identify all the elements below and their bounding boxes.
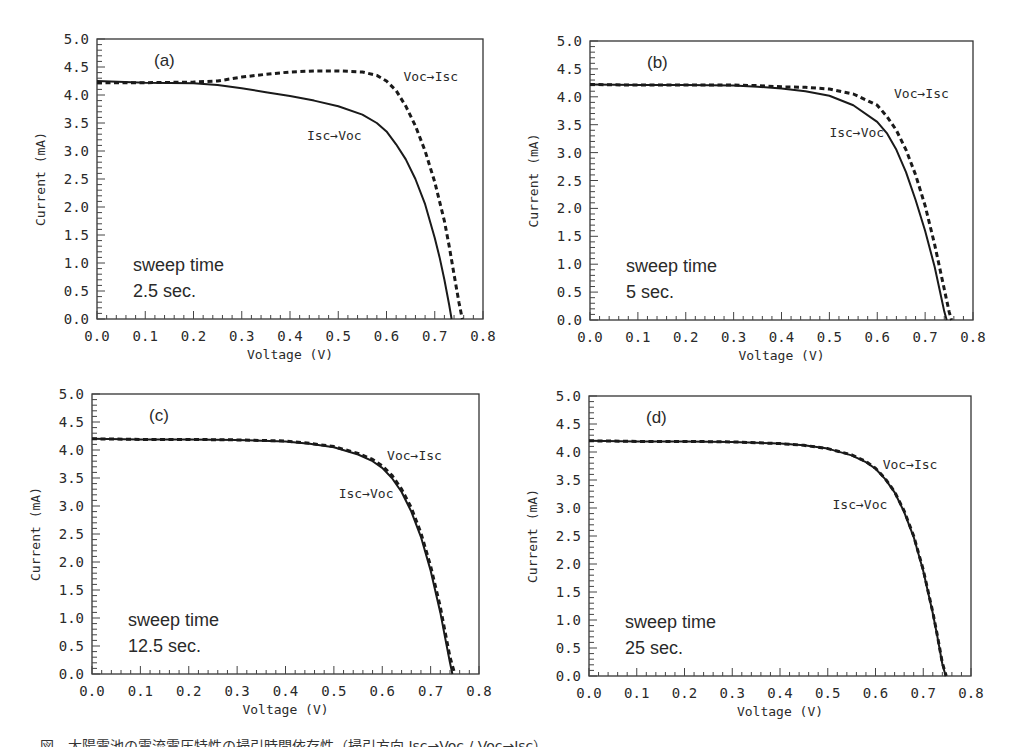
y-tick-label: 1.0: [556, 612, 581, 628]
y-tick-label: 0.0: [556, 668, 581, 684]
chart-svg: 0.00.51.01.52.02.53.03.54.04.55.00.00.10…: [505, 0, 1017, 370]
x-tick-label: 0.1: [133, 328, 158, 344]
y-tick-label: 1.5: [556, 584, 581, 600]
y-tick-label: 4.5: [557, 61, 582, 77]
y-tick-label: 1.5: [557, 228, 582, 244]
curve-label: Isc→Voc: [833, 497, 888, 512]
x-tick-label: 0.3: [721, 329, 746, 345]
x-tick-label: 0.0: [84, 328, 109, 344]
x-tick-label: 0.2: [181, 328, 206, 344]
sweep-time-annotation: sweep time: [133, 255, 224, 275]
x-tick-label: 0.6: [370, 683, 395, 699]
y-tick-label: 5.0: [59, 386, 84, 402]
y-tick-label: 2.5: [556, 528, 581, 544]
y-tick-label: 3.0: [557, 145, 582, 161]
curve-label: Voc→Isc: [387, 448, 442, 463]
x-tick-label: 0.4: [767, 685, 792, 701]
x-tick-label: 0.7: [418, 683, 443, 699]
x-axis-label: Voltage (V): [737, 704, 823, 719]
curve-label: Voc→Isc: [894, 86, 949, 101]
chart-panel-c: 0.00.51.01.52.02.53.03.54.04.55.00.00.10…: [0, 370, 505, 735]
y-tick-label: 3.5: [557, 117, 582, 133]
y-tick-label: 4.0: [64, 87, 89, 103]
chart-panel-b: 0.00.51.01.52.02.53.03.54.04.55.00.00.10…: [505, 0, 1017, 370]
x-tick-label: 0.5: [817, 329, 842, 345]
chart-svg: 0.00.51.01.52.02.53.03.54.04.55.00.00.10…: [0, 370, 505, 735]
y-tick-label: 0.0: [64, 311, 89, 327]
x-tick-label: 0.6: [865, 329, 890, 345]
x-tick-label: 0.4: [277, 328, 302, 344]
x-tick-label: 0.5: [815, 685, 840, 701]
sweep-time-annotation: sweep time: [625, 612, 716, 632]
x-tick-label: 0.7: [912, 329, 937, 345]
sweep-time-annotation: 2.5 sec.: [133, 281, 196, 301]
x-tick-label: 0.2: [673, 329, 698, 345]
y-tick-label: 5.0: [556, 388, 581, 404]
curve-label: Isc→Voc: [339, 486, 394, 501]
panel-tag: (b): [647, 53, 668, 72]
x-axis-label: Voltage (V): [738, 348, 824, 363]
x-tick-label: 0.2: [672, 685, 697, 701]
sweep-time-annotation: 5 sec.: [626, 282, 674, 302]
figure-caption: 図 太陽電池の電流電圧特性の掃引時間依存性（掃引方向 Isc→Voc / Voc…: [40, 735, 980, 747]
plot-frame: [590, 41, 973, 320]
y-tick-label: 2.0: [64, 199, 89, 215]
y-tick-label: 0.5: [557, 284, 582, 300]
y-tick-label: 3.0: [556, 500, 581, 516]
x-tick-label: 0.1: [624, 685, 649, 701]
x-tick-label: 0.0: [577, 329, 602, 345]
x-tick-label: 0.8: [960, 329, 985, 345]
y-tick-label: 2.0: [557, 200, 582, 216]
x-tick-label: 0.3: [224, 683, 249, 699]
y-tick-label: 0.5: [556, 640, 581, 656]
y-tick-label: 4.0: [556, 444, 581, 460]
y-tick-label: 0.5: [59, 638, 84, 654]
y-tick-label: 2.5: [59, 526, 84, 542]
y-tick-label: 3.0: [59, 498, 84, 514]
y-tick-label: 3.5: [556, 472, 581, 488]
x-tick-label: 0.3: [720, 685, 745, 701]
x-axis-label: Voltage (V): [247, 347, 333, 362]
y-axis-label: Current (mA): [28, 487, 43, 581]
y-axis-label: Current (mA): [526, 134, 541, 228]
x-tick-label: 0.8: [466, 683, 491, 699]
y-tick-label: 3.5: [59, 470, 84, 486]
y-tick-label: 3.0: [64, 143, 89, 159]
sweep-time-annotation: 25 sec.: [625, 638, 683, 658]
y-tick-label: 4.5: [59, 414, 84, 430]
x-tick-label: 0.3: [229, 328, 254, 344]
x-tick-label: 0.0: [576, 685, 601, 701]
y-tick-label: 1.0: [557, 256, 582, 272]
x-tick-label: 0.4: [769, 329, 794, 345]
y-tick-label: 1.5: [59, 582, 84, 598]
y-tick-label: 2.5: [557, 173, 582, 189]
x-tick-label: 0.7: [911, 685, 936, 701]
x-tick-label: 0.8: [958, 685, 983, 701]
chart-panel-a: 0.00.51.01.52.02.53.03.54.04.55.00.00.10…: [0, 0, 505, 370]
y-tick-label: 1.0: [59, 610, 84, 626]
x-axis-label: Voltage (V): [242, 702, 328, 717]
panel-tag: (a): [154, 51, 175, 70]
chart-svg: 0.00.51.01.52.02.53.03.54.04.55.00.00.10…: [505, 370, 1017, 735]
chart-svg: 0.00.51.01.52.02.53.03.54.04.55.00.00.10…: [0, 0, 505, 370]
y-tick-label: 3.5: [64, 115, 89, 131]
y-tick-label: 5.0: [557, 33, 582, 49]
y-tick-label: 1.0: [64, 255, 89, 271]
curve-label: Voc→Isc: [403, 69, 458, 84]
curve-label: Isc→Voc: [829, 125, 884, 140]
y-tick-label: 1.5: [64, 227, 89, 243]
y-tick-label: 4.5: [64, 59, 89, 75]
panel-tag: (c): [149, 406, 169, 425]
y-tick-label: 2.5: [64, 171, 89, 187]
sweep-time-annotation: sweep time: [128, 610, 219, 630]
x-tick-label: 0.4: [273, 683, 298, 699]
x-tick-label: 0.8: [470, 328, 495, 344]
y-tick-label: 2.0: [556, 556, 581, 572]
y-tick-label: 4.0: [557, 89, 582, 105]
chart-panel-d: 0.00.51.01.52.02.53.03.54.04.55.00.00.10…: [505, 370, 1017, 735]
x-tick-label: 0.7: [422, 328, 447, 344]
x-tick-label: 0.6: [374, 328, 399, 344]
x-tick-label: 0.0: [79, 683, 104, 699]
x-tick-label: 0.5: [326, 328, 351, 344]
sweep-time-annotation: sweep time: [626, 256, 717, 276]
